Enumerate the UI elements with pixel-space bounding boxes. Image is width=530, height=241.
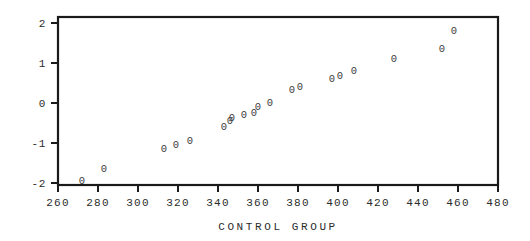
data-point-marker: 0 bbox=[329, 73, 335, 85]
y-tick-label: 2 bbox=[39, 18, 46, 30]
x-tick-label: 300 bbox=[126, 197, 150, 209]
data-point-marker: 0 bbox=[267, 97, 273, 109]
data-point-marker: 0 bbox=[187, 135, 193, 147]
data-point-marker: 0 bbox=[101, 163, 107, 175]
data-point-marker: 0 bbox=[297, 81, 303, 93]
x-tick-label: 380 bbox=[286, 197, 310, 209]
x-axis-title: CONTROL GROUP bbox=[218, 221, 338, 233]
x-tick-label: 320 bbox=[166, 197, 190, 209]
data-point-marker: 0 bbox=[351, 65, 357, 77]
x-tick-label: 440 bbox=[406, 197, 430, 209]
y-tick-label: 0 bbox=[39, 98, 46, 110]
data-point-marker: 0 bbox=[391, 53, 397, 65]
plot-canvas: 260280300320340360380400420440460480 -2-… bbox=[0, 0, 530, 241]
data-point-marker: 0 bbox=[289, 84, 295, 96]
y-tick-label: 1 bbox=[39, 58, 46, 70]
data-point-marker: 0 bbox=[255, 101, 261, 113]
x-tick-label: 360 bbox=[246, 197, 270, 209]
x-tick-label: 280 bbox=[86, 197, 110, 209]
x-tick-label: 400 bbox=[326, 197, 350, 209]
scatter-plot-figure: 260280300320340360380400420440460480 -2-… bbox=[0, 0, 530, 241]
data-point-marker: 0 bbox=[451, 25, 457, 37]
data-point-marker: 0 bbox=[161, 143, 167, 155]
data-point-marker: 0 bbox=[173, 139, 179, 151]
y-tick-label: -2 bbox=[32, 178, 46, 190]
data-point-marker: 0 bbox=[241, 109, 247, 121]
data-point-marker: 0 bbox=[79, 175, 85, 187]
data-point-marker: 0 bbox=[229, 112, 235, 124]
x-tick-label: 420 bbox=[366, 197, 390, 209]
x-tick-label: 340 bbox=[206, 197, 230, 209]
x-tick-label: 260 bbox=[46, 197, 70, 209]
x-tick-label: 480 bbox=[486, 197, 510, 209]
data-point-marker: 0 bbox=[439, 43, 445, 55]
data-point-marker: 0 bbox=[337, 70, 343, 82]
y-tick-label: -1 bbox=[32, 138, 46, 150]
x-tick-label: 460 bbox=[446, 197, 470, 209]
